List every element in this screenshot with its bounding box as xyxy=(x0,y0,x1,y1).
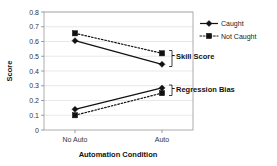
legend-label-not-caught: Not Caught xyxy=(221,33,256,41)
y-tick-label-0: 0 xyxy=(35,127,39,134)
gridlines xyxy=(44,12,193,115)
line-chart: 0.8 0.7 0.6 0.5 0.4 0.3 0.2 0.1 0 Score xyxy=(0,0,277,166)
y-tick-label-6: 0.6 xyxy=(29,38,39,45)
not-caught-bias-point-auto xyxy=(159,91,164,96)
y-tick-label-2: 0.2 xyxy=(29,97,39,104)
caught-skill-point-auto xyxy=(159,61,165,67)
not-caught-skill-line xyxy=(75,33,162,53)
not-caught-bias-line xyxy=(75,93,162,115)
y-tick-label-4: 0.4 xyxy=(29,68,39,75)
caught-bias-point-no-auto xyxy=(72,106,78,112)
not-caught-skill-point-no-auto xyxy=(72,31,77,36)
x-axis-title: Automation Condition xyxy=(79,150,158,159)
caught-skill-line xyxy=(75,41,162,65)
chart-legend[interactable]: Caught Not Caught xyxy=(200,20,256,41)
x-axis-ticks xyxy=(75,130,162,133)
y-axis-tick-labels: 0.8 0.7 0.6 0.5 0.4 0.3 0.2 0.1 0 xyxy=(29,9,39,134)
y-tick-label-1: 0.1 xyxy=(29,112,39,119)
y-axis-title: Score xyxy=(5,61,14,82)
series-caught-regression-bias xyxy=(72,85,165,112)
skill-score-bracket xyxy=(169,51,175,67)
legend-item-not-caught[interactable]: Not Caught xyxy=(200,33,256,41)
x-tick-label-auto: Auto xyxy=(155,136,170,143)
y-tick-label-7: 0.7 xyxy=(29,23,39,30)
y-tick-label-8: 0.8 xyxy=(29,9,39,16)
legend-label-caught: Caught xyxy=(221,20,244,28)
skill-score-annotation-label: Skill Score xyxy=(176,52,214,61)
regression-bias-annotation-label: Regression Bias xyxy=(176,85,235,94)
series-not-caught-regression-bias xyxy=(72,91,164,118)
caught-skill-point-no-auto xyxy=(72,38,78,44)
series-caught-skill-score xyxy=(72,38,165,68)
annotation-regression-bias: Regression Bias xyxy=(169,85,235,96)
caught-bias-line xyxy=(75,88,162,109)
y-tick-label-3: 0.3 xyxy=(29,82,39,89)
regression-bias-bracket xyxy=(169,85,175,96)
annotation-skill-score: Skill Score xyxy=(169,51,214,67)
legend-caught-marker-diamond-icon xyxy=(206,21,212,27)
legend-item-caught[interactable]: Caught xyxy=(200,20,244,28)
not-caught-bias-point-no-auto xyxy=(72,113,77,118)
y-tick-label-5: 0.5 xyxy=(29,53,39,60)
not-caught-skill-point-auto xyxy=(159,51,164,56)
x-tick-label-no-auto: No Auto xyxy=(63,136,88,143)
y-axis-ticks xyxy=(41,12,44,130)
legend-not-caught-marker-square-icon xyxy=(206,33,211,38)
chart-figure: 0.8 0.7 0.6 0.5 0.4 0.3 0.2 0.1 0 Score xyxy=(0,0,277,166)
